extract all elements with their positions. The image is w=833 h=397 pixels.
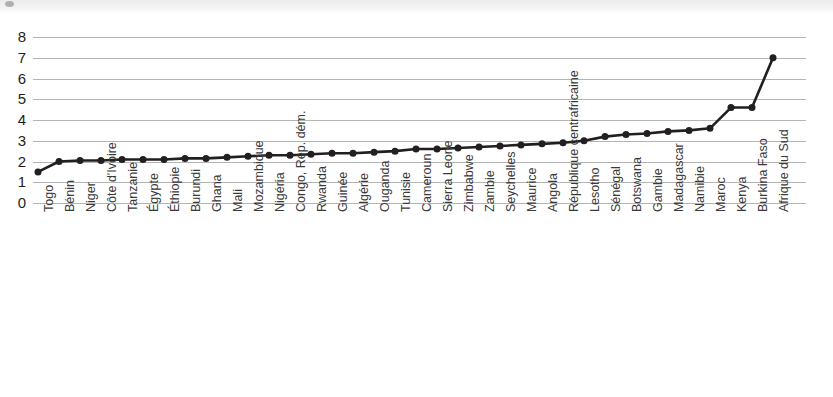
data-point	[182, 155, 189, 162]
data-point	[434, 146, 441, 153]
data-point	[140, 156, 147, 163]
data-point	[665, 128, 672, 135]
data-point	[350, 150, 357, 157]
data-point	[119, 156, 126, 163]
data-point	[329, 150, 336, 157]
data-point	[35, 168, 42, 175]
data-point	[98, 157, 105, 164]
data-point	[308, 151, 315, 158]
data-point	[518, 141, 525, 148]
data-point	[560, 139, 567, 146]
data-point	[266, 152, 273, 159]
line-chart: 012345678 TogoBéninNigerCôte d'IvoireTan…	[0, 0, 833, 397]
data-point	[581, 137, 588, 144]
data-point	[224, 154, 231, 161]
data-point	[728, 104, 735, 111]
data-point	[644, 130, 651, 137]
data-point	[287, 152, 294, 159]
data-point	[707, 125, 714, 132]
data-point	[77, 157, 84, 164]
data-point	[749, 104, 756, 111]
data-point	[455, 145, 462, 152]
data-point	[686, 127, 693, 134]
data-point	[770, 54, 777, 61]
series-line	[38, 58, 773, 172]
data-point	[392, 148, 399, 155]
data-point	[56, 158, 63, 165]
data-point	[161, 156, 168, 163]
data-point	[497, 142, 504, 149]
data-point	[203, 155, 210, 162]
data-point	[245, 153, 252, 160]
plot-series-layer	[0, 0, 833, 397]
data-point	[371, 149, 378, 156]
data-point	[623, 131, 630, 138]
data-point	[539, 140, 546, 147]
data-point	[413, 146, 420, 153]
data-point	[602, 133, 609, 140]
data-point	[476, 143, 483, 150]
